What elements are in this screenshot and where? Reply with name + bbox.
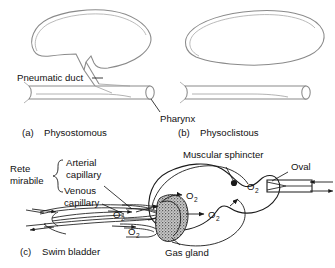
o2-label-rete-upper: O 2 <box>113 209 125 222</box>
o2-subscript: 2 <box>255 187 259 194</box>
label-pharynx: Pharynx <box>160 113 195 124</box>
rete-mirabile-brace <box>53 160 63 192</box>
label-oval: Oval <box>291 161 311 172</box>
muscular-sphincter-marker <box>231 180 237 186</box>
pharynx-opening-b <box>302 86 310 99</box>
o2-subscript: 2 <box>216 215 220 222</box>
panel-b-physoclistous-diagram <box>180 11 324 103</box>
pharynx-leader-a <box>151 99 160 112</box>
pharynx-opening-a <box>146 86 154 99</box>
label-venous-line2: capillary <box>64 197 99 208</box>
o2-label-gland-lower: O 2 <box>208 209 220 222</box>
caption-panel-a: (a) Physostomous <box>22 127 107 138</box>
label-venous-line1: Venous <box>64 185 96 196</box>
panel-a-physostomous-diagram <box>24 10 160 112</box>
label-gas-gland: Gas gland <box>165 247 209 258</box>
o2-symbol: O <box>128 226 135 237</box>
o2-symbol: O <box>247 181 254 192</box>
esophagus-tube-a <box>29 86 152 99</box>
o2-symbol: O <box>208 209 215 220</box>
rete-mirabile-capillaries <box>26 205 162 237</box>
oval-structure <box>267 180 333 192</box>
o2-subscript: 2 <box>136 232 140 239</box>
caption-a-text: Physostomous <box>44 127 107 138</box>
label-arterial-line1: Arterial <box>66 157 96 168</box>
caption-b-prefix: (b) <box>178 127 190 138</box>
caption-panel-c: (c) Swim bladder <box>20 246 101 257</box>
caption-panel-b: (b) Physoclistous <box>178 127 259 138</box>
caption-b-text: Physoclistous <box>200 127 259 138</box>
label-rete-line1: Rete <box>10 163 30 174</box>
bladder-outline-a <box>32 10 151 70</box>
caption-c-prefix: (c) <box>20 246 31 257</box>
caption-a-prefix: (a) <box>22 127 34 138</box>
label-pneumatic-duct: Pneumatic duct <box>17 72 83 83</box>
o2-subscript: 2 <box>121 215 125 222</box>
label-muscular-sphincter: Muscular sphincter <box>183 149 264 160</box>
o2-symbol: O <box>186 190 193 201</box>
esophagus-tube-b <box>185 86 308 99</box>
o2-subscript: 2 <box>194 196 198 203</box>
arterial-capillary-leader <box>104 186 132 209</box>
pneumatic-duct-a <box>86 62 99 84</box>
caption-c-text: Swim bladder <box>42 246 101 257</box>
o2-label-gland-upper: O 2 <box>186 190 198 203</box>
swim-bladder-figure: Pneumatic duct Pharynx (a) Physostomous … <box>0 0 335 268</box>
bladder-outline-b <box>185 11 324 66</box>
o2-symbol: O <box>113 209 120 220</box>
label-rete-line2: mirabile <box>10 175 44 186</box>
label-arterial-line2: capillary <box>66 169 101 180</box>
